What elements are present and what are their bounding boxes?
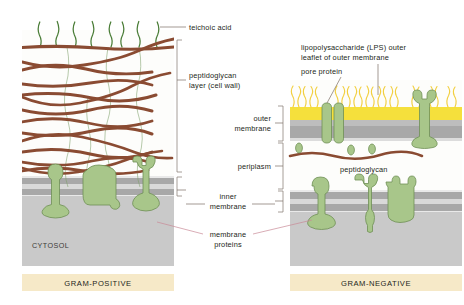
gram-negative-panel: peptidoglycan GRAM-NEGATIVE — [290, 80, 462, 291]
peptidoglycan-layer-callout: peptidoglycan layer (cell wall) — [177, 40, 240, 172]
periplasm-callout: periplasm — [238, 143, 283, 189]
periplasm-label: periplasm — [238, 162, 271, 171]
figure-canvas: CYTOSOL GRAM-POSITIVE — [0, 0, 464, 305]
outer-membrane-core — [290, 120, 462, 126]
gram-positive-banner-label: GRAM-POSITIVE — [64, 279, 131, 288]
inner-membrane-callout-right — [275, 191, 283, 212]
gram-negative-banner-label: GRAM-NEGATIVE — [341, 279, 411, 288]
inner-membrane-label-group: inner membrane — [186, 192, 275, 211]
teichoic-acid-label: teichoic acid — [189, 23, 232, 32]
outer-membrane-callout: outer membrane — [234, 106, 283, 141]
cytosol-label-left: CYTOSOL — [32, 241, 69, 250]
peptidoglycan-label-right: peptidoglycan — [340, 165, 388, 174]
membrane-proteins-label-2: proteins — [214, 240, 242, 249]
inner-membrane-label-1: inner — [219, 192, 237, 201]
bacterial-envelope-diagram: CYTOSOL GRAM-POSITIVE — [0, 0, 464, 305]
peptidoglycan-layer-label-1: peptidoglycan — [189, 71, 237, 80]
inner-membrane-callout-left — [177, 177, 186, 196]
membrane-proteins-label-1: membrane — [210, 230, 247, 239]
inner-membrane-label-2: membrane — [210, 202, 247, 211]
lps-label-2: leaflet of outer membrane — [301, 53, 389, 62]
lps-outer-leaflet — [290, 107, 462, 120]
outer-membrane-label-2: membrane — [234, 124, 271, 133]
peptidoglycan-layer-label-2: layer (cell wall) — [189, 81, 240, 90]
lps-label-1: lipopolysaccharide (LPS) outer — [301, 43, 406, 52]
outer-membrane-label-1: outer — [253, 114, 271, 123]
pore-protein-label: pore protein — [301, 67, 342, 76]
gram-positive-panel: CYTOSOL GRAM-POSITIVE — [22, 22, 174, 292]
membrane-proteins-callout: membrane proteins — [157, 220, 312, 249]
outer-membrane-inner-leaflet — [290, 126, 462, 138]
inner-membrane-right — [290, 190, 462, 212]
